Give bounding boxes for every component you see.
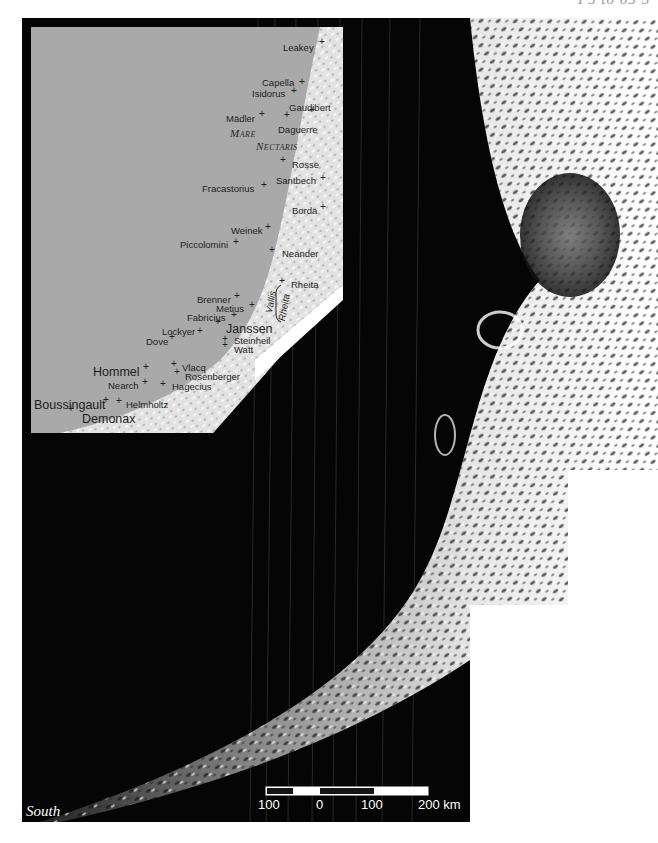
crater-label: Nearch xyxy=(108,381,139,391)
crater-marker-icon: + xyxy=(265,222,271,232)
crater-label: Rheita xyxy=(291,280,318,290)
crater-marker-icon: + xyxy=(68,404,74,414)
crater-marker-icon: + xyxy=(222,340,228,350)
crater-marker-icon: + xyxy=(320,173,326,183)
mare-label: Mare xyxy=(230,127,256,139)
crater-marker-icon: + xyxy=(233,237,239,247)
crater-marker-icon: + xyxy=(261,180,267,190)
crater-marker-icon: + xyxy=(143,362,149,372)
crater-marker-icon: + xyxy=(299,77,305,87)
nectaris-label: Nectaris xyxy=(256,140,298,152)
crater-label: Piccolomini xyxy=(180,240,228,250)
crater-marker-icon: + xyxy=(249,300,255,310)
scale-tick-100-right: 100 xyxy=(361,797,383,812)
crater-marker-icon: + xyxy=(103,395,109,405)
crater-label: Daguerre xyxy=(278,125,318,135)
crater-label: Janssen xyxy=(226,323,273,336)
crater-label: Hagecius xyxy=(172,382,212,392)
crater-label: Helmholtz xyxy=(126,400,168,410)
crater-label: Borda xyxy=(292,206,317,216)
crater-marker-icon: + xyxy=(284,110,290,120)
scale-tick-100-left: 100 xyxy=(258,797,280,812)
crater-label: Dove xyxy=(146,337,168,347)
crater-marker-icon: + xyxy=(309,105,315,115)
crater-marker-icon: + xyxy=(259,109,265,119)
crater-marker-icon: + xyxy=(142,377,148,387)
crater-marker-icon: + xyxy=(116,396,122,406)
crater-label: Rosse xyxy=(292,160,319,170)
crater-marker-icon: + xyxy=(279,276,285,286)
crater-marker-icon: + xyxy=(320,202,326,212)
crater-label: Capella xyxy=(262,78,294,88)
crater-marker-icon: + xyxy=(269,245,275,255)
crater-label: Isidorus xyxy=(252,89,285,99)
crater-label: Demonax xyxy=(82,413,136,426)
crater-label: Watt xyxy=(234,345,253,355)
scale-bar xyxy=(266,787,428,795)
crater-label: Leakey xyxy=(283,43,314,53)
orientation-label-south: South xyxy=(26,803,60,820)
crater-label: Santbech xyxy=(276,176,316,186)
crater-marker-icon: + xyxy=(174,367,180,377)
scale-tick-0: 0 xyxy=(316,797,323,812)
crater-label: Fracastorius xyxy=(202,184,254,194)
crater-marker-icon: + xyxy=(280,155,286,165)
crater-marker-icon: + xyxy=(197,326,203,336)
crater-label: Neander xyxy=(282,249,318,259)
crater-marker-icon: + xyxy=(160,379,166,389)
crater-label: Mädler xyxy=(226,114,255,124)
crater-label: Hommel xyxy=(93,366,140,379)
crater-marker-icon: + xyxy=(234,291,240,301)
mare-nectaris-basin xyxy=(520,173,620,297)
crater-marker-icon: + xyxy=(169,332,175,342)
crater-label: Weinek xyxy=(231,226,263,236)
scale-tick-200-km: 200 km xyxy=(418,797,461,812)
crater-marker-icon: + xyxy=(319,37,325,47)
crater-marker-icon: + xyxy=(231,310,237,320)
crater-marker-icon: + xyxy=(291,86,297,96)
crater-marker-icon: + xyxy=(215,317,221,327)
